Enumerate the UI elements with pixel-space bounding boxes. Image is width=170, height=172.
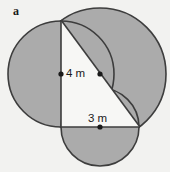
horizontal-leg-dimension-label: 3 m [88,113,107,125]
left-circle-center-dot [58,71,63,76]
bottom-circle-center-dot [97,124,102,129]
hypotenuse-circle-center-dot [97,71,102,76]
figure-canvas [0,0,170,172]
part-label: a [13,5,19,17]
vertical-leg-dimension-label: 4 m [66,68,85,80]
geometry-figure: a 4 m 3 m [0,0,170,172]
